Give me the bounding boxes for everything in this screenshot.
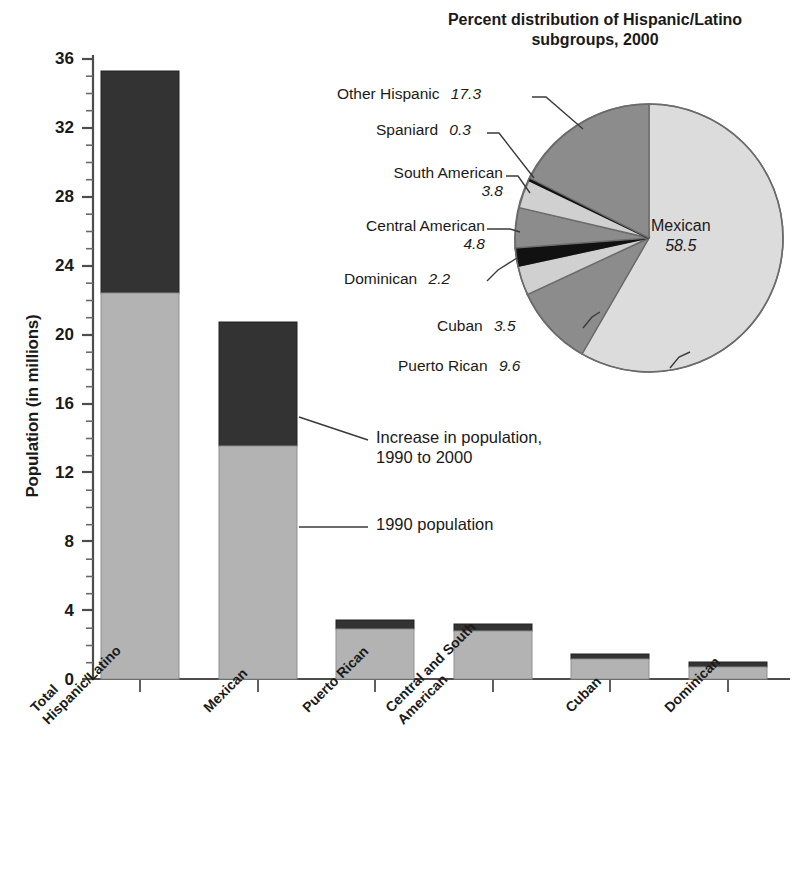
pie-slice-dominican bbox=[515, 238, 649, 266]
pie-chart-title: Percent distribution of Hispanic/Latino … bbox=[392, 10, 798, 50]
bar-group-cuban bbox=[571, 654, 649, 679]
pie-label-spaniard: Spaniard 0.3 bbox=[376, 121, 471, 139]
y-axis-minor-ticks bbox=[86, 76, 93, 663]
pie-slice-other-hispanic bbox=[530, 104, 649, 238]
leader-line-other-hispanic bbox=[532, 97, 583, 129]
pie-label-south-american: South American 3.8 bbox=[328, 164, 503, 201]
annotation-line-1: 1990 population bbox=[376, 515, 493, 535]
pie-slice-south-american bbox=[519, 180, 649, 238]
annotation-increase-in-population: Increase in population, 1990 to 2000 bbox=[376, 428, 542, 468]
bar-segment-1990 bbox=[219, 446, 297, 679]
bar-segment-1990 bbox=[571, 659, 649, 679]
y-tick-label-32: 32 bbox=[30, 119, 74, 136]
pie-chart-plot bbox=[515, 104, 783, 372]
pie-label-puerto-rican: Puerto Rican 9.6 bbox=[398, 357, 520, 375]
pie-slice-cuban bbox=[518, 238, 649, 295]
pie-label-name: Puerto Rican bbox=[398, 357, 488, 374]
pie-title-line-1: Percent distribution of Hispanic/Latino bbox=[392, 10, 798, 30]
pie-label-value: 3.5 bbox=[494, 317, 516, 334]
pie-label-dominican: Dominican 2.2 bbox=[344, 270, 450, 288]
pie-title-line-2: subgroups, 2000 bbox=[392, 30, 798, 50]
pie-label-value: 0.3 bbox=[449, 121, 471, 138]
x-axis-label-line-1: Mexican bbox=[200, 665, 251, 716]
pie-slice-spaniard bbox=[529, 178, 649, 238]
pie-label-name: Mexican bbox=[651, 217, 711, 234]
leader-line-cuban bbox=[583, 312, 600, 328]
y-tick-label-24: 24 bbox=[30, 257, 74, 274]
pie-label-cuban: Cuban 3.5 bbox=[437, 317, 516, 335]
pie-label-value: 17.3 bbox=[451, 85, 481, 102]
bar-segment-increase bbox=[101, 71, 179, 293]
pie-label-name: Other Hispanic bbox=[337, 85, 440, 102]
bar-segment-increase bbox=[219, 322, 297, 446]
y-tick-label-12: 12 bbox=[30, 464, 74, 481]
bar-group-total-hispanic-latino bbox=[101, 71, 179, 679]
pie-slice-puerto-rican bbox=[527, 238, 649, 354]
pie-label-value: 9.6 bbox=[499, 357, 521, 374]
bar-segment-1990 bbox=[101, 293, 179, 679]
annotation-leader-lines bbox=[299, 417, 368, 527]
x-axis-label-line-1: Dominican bbox=[661, 653, 723, 715]
pie-label-name: Spaniard bbox=[376, 121, 438, 138]
pie-label-name: South American bbox=[394, 164, 503, 181]
pie-slice-central-american bbox=[515, 208, 649, 248]
x-axis-label-cuban: Cuban bbox=[562, 673, 604, 715]
x-axis-label-dominican: Dominican bbox=[661, 653, 723, 715]
pie-label-value: 3.8 bbox=[328, 182, 503, 200]
pie-label-name: Dominican bbox=[344, 270, 417, 287]
y-tick-label-20: 20 bbox=[30, 326, 74, 343]
bar-group-mexican bbox=[219, 322, 297, 679]
x-axis-label-puerto-rican: Puerto Rican bbox=[299, 643, 372, 716]
pie-label-value: 2.2 bbox=[429, 270, 451, 287]
pie-label-value: 4.8 bbox=[310, 235, 485, 253]
pie-outline bbox=[515, 104, 783, 372]
y-tick-label-4: 4 bbox=[30, 602, 74, 619]
annotation-line-2: 1990 to 2000 bbox=[376, 448, 542, 468]
leader-line-south-american bbox=[506, 176, 530, 193]
leader-line-increase bbox=[299, 417, 368, 440]
x-axis-label-central-and-south-american: Central and South American bbox=[382, 619, 491, 728]
leader-line-dominican bbox=[487, 258, 517, 281]
pie-label-central-american: Central American 4.8 bbox=[310, 217, 485, 254]
pie-label-mexican: Mexican 58.5 bbox=[651, 216, 711, 256]
annotation-1990-population: 1990 population bbox=[376, 515, 493, 535]
y-tick-label-8: 8 bbox=[30, 533, 74, 550]
x-axis-label-mexican: Mexican bbox=[200, 665, 251, 716]
leader-line-central-american bbox=[487, 229, 520, 232]
chart-canvas: Population (in millions) 36 32 28 24 20 … bbox=[0, 0, 798, 884]
pie-label-name: Cuban bbox=[437, 317, 483, 334]
y-tick-label-28: 28 bbox=[30, 188, 74, 205]
x-axis-label-line-1: Cuban bbox=[562, 673, 604, 715]
y-tick-label-16: 16 bbox=[30, 395, 74, 412]
x-axis-label-line-1: Puerto Rican bbox=[299, 643, 372, 716]
y-axis-major-ticks bbox=[82, 59, 93, 679]
bar-segment-increase bbox=[571, 654, 649, 659]
leader-line-puerto-rican bbox=[670, 352, 690, 368]
annotation-line-1: Increase in population, bbox=[376, 428, 542, 448]
y-tick-label-36: 36 bbox=[30, 50, 74, 67]
pie-label-name: Central American bbox=[366, 217, 485, 234]
bar-segment-increase bbox=[336, 620, 414, 629]
pie-label-other-hispanic: Other Hispanic 17.3 bbox=[337, 85, 481, 103]
pie-label-value: 58.5 bbox=[651, 236, 711, 256]
